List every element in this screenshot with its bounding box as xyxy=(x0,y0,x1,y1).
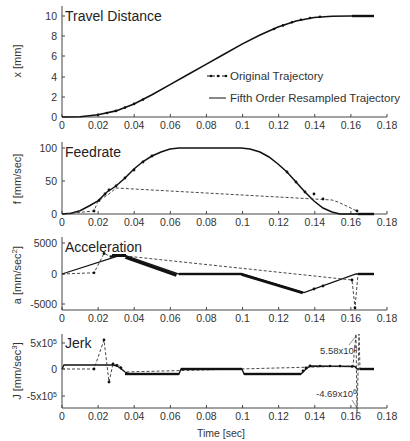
xtick-label: 0.14 xyxy=(305,312,326,324)
y-axis-label: x [mm] xyxy=(11,45,23,78)
legend-original-label: Original Trajectory xyxy=(230,70,324,82)
trajectory-figure: 10 8 6 4 2 0 00.020.040.060.080.10.120.1… xyxy=(0,0,410,441)
xtick-label: 0.04 xyxy=(124,312,145,324)
annotation-max: 5.58x106 xyxy=(320,345,358,357)
xtick-label: 0.02 xyxy=(88,216,109,228)
ytick-label: 0 xyxy=(51,268,57,280)
ytick-label: 10 xyxy=(45,10,57,22)
xtick-label: 0 xyxy=(59,119,65,131)
annotation-min: -4.69x106 xyxy=(316,388,357,400)
xtick-label: 0.12 xyxy=(268,216,289,228)
xtick-label: 0 xyxy=(59,216,65,228)
panel-jerk: 5x105 0 -5x105 00.020.040.060.080.10.120… xyxy=(10,334,398,439)
xtick-label: 0.1 xyxy=(235,216,250,228)
ytick-label: 2 xyxy=(51,91,57,103)
xtick-label: 0.1 xyxy=(235,312,250,324)
ytick-label: 4 xyxy=(51,71,57,83)
legend: Original Trajectory Fifth Order Resample… xyxy=(207,70,400,104)
xtick-label: 0.02 xyxy=(88,119,109,131)
ytick-label: 100 xyxy=(39,142,57,154)
x-axis-label: Time [sec] xyxy=(197,427,245,439)
xtick-label: 0.18 xyxy=(377,312,398,324)
ytick-label: -5000 xyxy=(30,298,57,310)
xtick-label: 0.08 xyxy=(196,119,217,131)
xtick-label: 0.16 xyxy=(341,216,362,228)
xtick-label: 0.12 xyxy=(268,119,289,131)
xtick-label: 0.12 xyxy=(268,410,289,422)
xtick-label: 0.08 xyxy=(196,312,217,324)
panel-title: Jerk xyxy=(65,335,92,351)
ytick-label: 50 xyxy=(45,175,57,187)
xtick-label: 0.14 xyxy=(305,119,326,131)
xtick-label: 0.02 xyxy=(88,410,109,422)
xtick-label: 0.1 xyxy=(235,410,250,422)
xtick-label: 0.04 xyxy=(124,216,145,228)
ytick-label: 0 xyxy=(51,111,57,123)
ytick-label: -5x105 xyxy=(27,390,57,402)
xtick-label: 0.08 xyxy=(196,216,217,228)
xtick-label: 0.14 xyxy=(305,216,326,228)
xtick-label: 0.04 xyxy=(124,410,145,422)
ytick-label: 6 xyxy=(51,50,57,62)
xtick-label: 0.18 xyxy=(377,119,398,131)
y-axis-label: f [mm/sec] xyxy=(11,154,23,205)
original-markers xyxy=(93,252,374,309)
xtick-label: 0 xyxy=(59,410,65,422)
xtick-label: 0.16 xyxy=(341,119,362,131)
xtick-label: 0.1 xyxy=(235,119,250,131)
xtick-label: 0.16 xyxy=(341,410,362,422)
y-axis-label: a [mm/sec2] xyxy=(10,246,24,304)
xtick-label: 0.12 xyxy=(268,312,289,324)
xtick-label: 0.18 xyxy=(377,410,398,422)
panel-feedrate: 100 50 0 00.020.040.060.080.10.120.140.1… xyxy=(11,142,397,228)
panel-travel-distance: 10 8 6 4 2 0 00.020.040.060.080.10.120.1… xyxy=(11,6,400,131)
legend-resampled-label: Fifth Order Resampled Trajectory xyxy=(230,92,400,104)
panel-title: Travel Distance xyxy=(65,8,162,24)
ytick-label: 5x105 xyxy=(30,337,57,349)
xtick-label: 0.06 xyxy=(160,119,181,131)
xtick-label: 0.16 xyxy=(341,312,362,324)
panel-acceleration: 5000 0 -5000 00.020.040.060.080.10.120.1… xyxy=(10,237,398,324)
xtick-label: 0 xyxy=(59,312,65,324)
ytick-label: 5000 xyxy=(34,237,58,249)
xtick-label: 0.02 xyxy=(88,312,109,324)
ytick-label: 8 xyxy=(51,30,57,42)
panel-title: Feedrate xyxy=(65,144,121,160)
ytick-label: 0 xyxy=(51,208,57,220)
original-markers xyxy=(93,155,374,216)
xtick-label: 0.06 xyxy=(160,410,181,422)
xtick-label: 0.08 xyxy=(196,410,217,422)
original-curve xyxy=(62,334,360,413)
ytick-label: 0 xyxy=(51,363,57,375)
y-axis-label: J [mm/sec3] xyxy=(10,342,24,400)
xtick-label: 0.14 xyxy=(305,410,326,422)
xtick-label: 0.06 xyxy=(160,216,181,228)
xtick-label: 0.06 xyxy=(160,312,181,324)
xtick-label: 0.18 xyxy=(377,216,398,228)
original-curve xyxy=(62,254,358,309)
xtick-label: 0.04 xyxy=(124,119,145,131)
